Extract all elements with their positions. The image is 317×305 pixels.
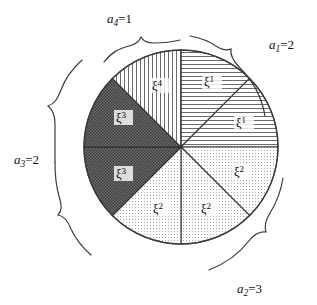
sector-label-4: ξ2: [151, 201, 171, 216]
sector-label-2: ξ2: [232, 164, 252, 179]
sector-label-0: ξ1: [202, 74, 222, 89]
group-equals: =: [25, 152, 32, 167]
sector-superscript: 2: [159, 201, 164, 211]
sector-label-3: ξ2: [199, 201, 219, 216]
sector-superscript: 3: [122, 166, 127, 176]
sector-superscript: 2: [207, 201, 212, 211]
sector-superscript: 4: [158, 78, 163, 88]
group-value: 2: [33, 152, 40, 167]
group-label-a3: a3=2: [14, 152, 39, 169]
sector-superscript: 1: [242, 115, 247, 125]
brace-a3-lower: [55, 162, 91, 255]
sector-label-6: ξ3: [114, 110, 133, 125]
partition-circle-figure: ξ1 ξ1 ξ2 ξ2: [0, 0, 317, 305]
sector-label-1: ξ1: [234, 115, 254, 130]
group-value: 3: [256, 281, 263, 296]
group-label-a4: a4=1: [107, 11, 132, 28]
diagram-canvas: ξ1 ξ1 ξ2 ξ2: [0, 0, 317, 305]
group-equals: =: [248, 281, 255, 296]
group-value: 1: [126, 11, 133, 26]
sector-label-7: ξ4: [150, 78, 170, 93]
group-value: 2: [288, 37, 295, 52]
group-label-a1: a1=2: [269, 37, 294, 54]
group-equals: =: [118, 11, 125, 26]
group-equals: =: [280, 37, 287, 52]
group-label-a2: a2=3: [237, 281, 262, 298]
sector-superscript: 1: [210, 74, 215, 84]
sector-superscript: 3: [122, 110, 127, 120]
brace-a3: [48, 60, 82, 162]
sector-label-5: ξ3: [114, 166, 133, 181]
sector-superscript: 2: [240, 164, 245, 174]
